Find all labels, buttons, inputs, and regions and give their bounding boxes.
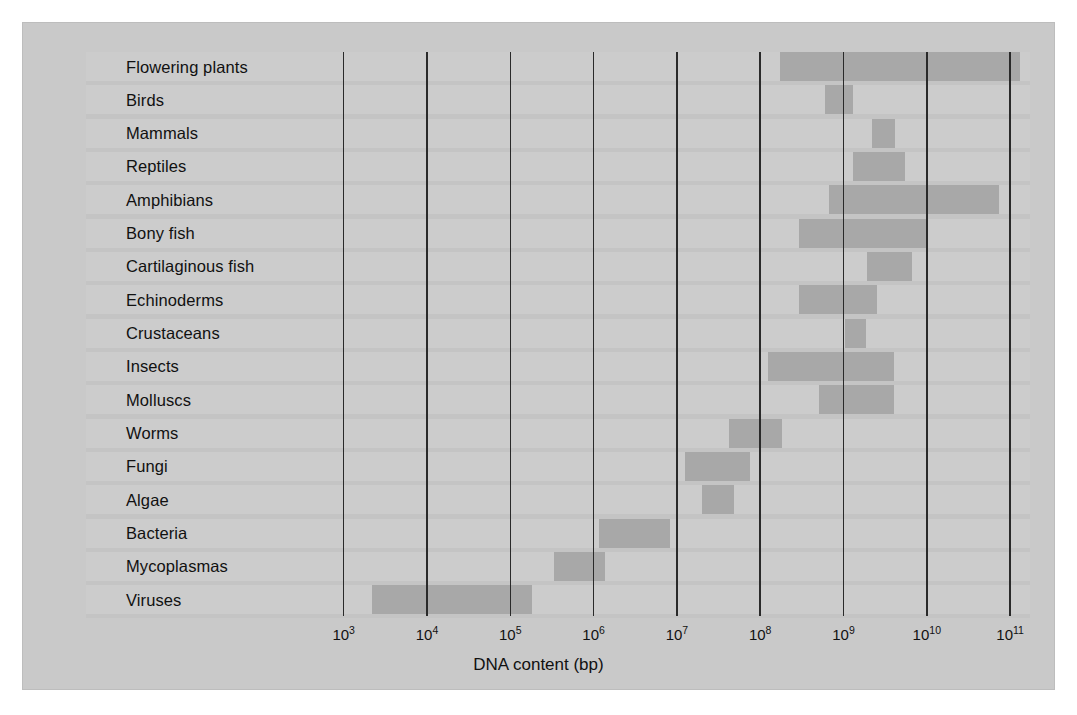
- tick-exponent: 3: [349, 624, 355, 636]
- category-label: Mycoplasmas: [126, 557, 228, 576]
- chart-row: Viruses: [86, 585, 1030, 614]
- range-bar: [799, 219, 926, 248]
- tick-mantissa: 10: [832, 626, 849, 643]
- gridline: [1009, 52, 1011, 616]
- range-bar: [845, 319, 866, 348]
- tick-exponent: 5: [516, 624, 522, 636]
- tick-mantissa: 10: [332, 626, 349, 643]
- range-bar: [554, 552, 605, 581]
- x-tick-label: 1011: [996, 626, 1024, 643]
- range-bar: [685, 452, 750, 481]
- tick-mantissa: 10: [996, 626, 1013, 643]
- x-tick-label: 107: [666, 626, 689, 643]
- tick-exponent: 4: [432, 624, 438, 636]
- x-tick-label: 105: [499, 626, 522, 643]
- range-bar: [799, 285, 877, 314]
- chart-row: Worms: [86, 419, 1030, 448]
- category-label: Echinoderms: [126, 290, 223, 309]
- tick-mantissa: 10: [749, 626, 766, 643]
- gridline: [676, 52, 678, 616]
- range-bar: [702, 485, 734, 514]
- tick-exponent: 6: [599, 624, 605, 636]
- chart-page: Flowering plantsBirdsMammalsReptilesAmph…: [0, 0, 1077, 715]
- tick-exponent: 9: [849, 624, 855, 636]
- category-label: Bacteria: [126, 524, 187, 543]
- category-label: Reptiles: [126, 157, 186, 176]
- tick-mantissa: 10: [499, 626, 516, 643]
- category-label: Birds: [126, 90, 164, 109]
- category-label: Bony fish: [126, 224, 195, 243]
- category-label: Viruses: [126, 590, 181, 609]
- chart-row: Algae: [86, 485, 1030, 514]
- x-tick-label: 106: [582, 626, 605, 643]
- gridline: [759, 52, 761, 616]
- range-bar: [780, 52, 1020, 81]
- range-bar: [372, 585, 532, 614]
- gridline: [593, 52, 595, 616]
- chart-row: Fungi: [86, 452, 1030, 481]
- chart-row: Birds: [86, 85, 1030, 114]
- chart-row: Bacteria: [86, 519, 1030, 548]
- tick-mantissa: 10: [416, 626, 433, 643]
- range-bar: [729, 419, 782, 448]
- x-tick-label: 104: [416, 626, 439, 643]
- category-label: Flowering plants: [126, 57, 248, 76]
- x-tick-label: 109: [832, 626, 855, 643]
- category-label: Worms: [126, 424, 178, 443]
- range-bar: [853, 152, 905, 181]
- category-label: Mammals: [126, 124, 198, 143]
- gridline: [843, 52, 845, 616]
- chart-row: Crustaceans: [86, 319, 1030, 348]
- category-label: Algae: [126, 490, 169, 509]
- gridline: [343, 52, 345, 616]
- x-tick-label: 108: [749, 626, 772, 643]
- range-bar: [599, 519, 671, 548]
- range-bar: [819, 385, 895, 414]
- category-label: Crustaceans: [126, 324, 220, 343]
- category-label: Molluscs: [126, 390, 191, 409]
- tick-mantissa: 10: [582, 626, 599, 643]
- range-bar: [867, 252, 912, 281]
- category-label: Amphibians: [126, 190, 213, 209]
- range-bar: [825, 85, 853, 114]
- tick-exponent: 11: [1013, 624, 1024, 636]
- x-tick-label: 103: [332, 626, 355, 643]
- tick-mantissa: 10: [666, 626, 683, 643]
- figure-panel: Flowering plantsBirdsMammalsReptilesAmph…: [22, 22, 1055, 690]
- tick-exponent: 7: [682, 624, 688, 636]
- category-label: Fungi: [126, 457, 168, 476]
- x-axis-title: DNA content (bp): [22, 655, 1055, 675]
- chart-row: Echinoderms: [86, 285, 1030, 314]
- tick-exponent: 8: [766, 624, 772, 636]
- category-label: Insects: [126, 357, 179, 376]
- range-bar: [829, 185, 1000, 214]
- category-label: Cartilaginous fish: [126, 257, 254, 276]
- range-bar: [768, 352, 895, 381]
- range-bar: [872, 119, 895, 148]
- x-tick-label: 1010: [913, 626, 941, 643]
- gridline: [426, 52, 428, 616]
- tick-exponent: 10: [929, 624, 941, 636]
- gridline: [926, 52, 928, 616]
- gridline: [510, 52, 512, 616]
- tick-mantissa: 10: [913, 626, 930, 643]
- plot-area: Flowering plantsBirdsMammalsReptilesAmph…: [86, 52, 1030, 618]
